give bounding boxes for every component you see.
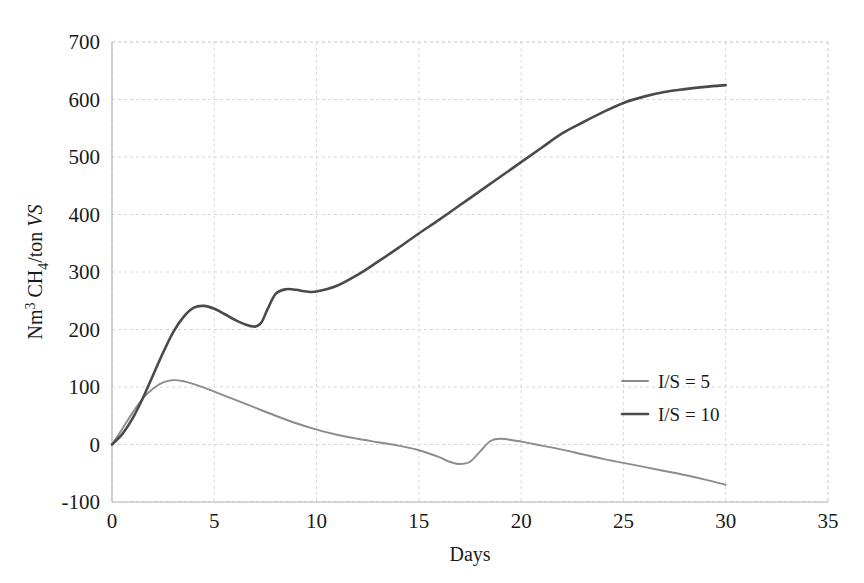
- x-tick-label: 25: [613, 509, 634, 533]
- y-axis-title-suffix: /ton: [24, 227, 46, 263]
- x-tick-label: 0: [107, 509, 118, 533]
- x-tick-label: 30: [715, 509, 736, 533]
- line-chart: 05101520253035 -100010020030040050060070…: [0, 0, 864, 583]
- y-tick-label: 100: [69, 375, 101, 399]
- y-tick-label: -100: [62, 490, 101, 514]
- x-tick-labels: 05101520253035: [107, 509, 839, 533]
- x-axis-title: Days: [449, 543, 490, 566]
- y-tick-label: 0: [90, 433, 101, 457]
- gridlines-group: [112, 42, 828, 502]
- y-axis-title-italic: VS: [24, 204, 46, 226]
- y-tick-label: 500: [69, 145, 101, 169]
- y-tick-labels: -1000100200300400500600700: [62, 30, 101, 514]
- legend: I/S = 5I/S = 10: [622, 371, 719, 425]
- y-axis-title-prefix: Nm: [24, 309, 46, 339]
- x-tick-label: 15: [408, 509, 429, 533]
- y-tick-label: 700: [69, 30, 101, 54]
- figure-container: 05101520253035 -100010020030040050060070…: [0, 0, 864, 583]
- y-tick-label: 300: [69, 260, 101, 284]
- legend-label-2: I/S = 10: [658, 404, 719, 425]
- legend-label-1: I/S = 5: [658, 371, 710, 392]
- y-tick-label: 200: [69, 318, 101, 342]
- x-tick-label: 20: [511, 509, 532, 533]
- y-axis-title-mid: CH: [24, 270, 46, 303]
- svg-text:Nm3 CH4/ton VS: Nm3 CH4/ton VS: [23, 204, 51, 339]
- x-tick-label: 5: [209, 509, 220, 533]
- y-axis-title-sup: 3: [23, 303, 38, 310]
- x-tick-label: 10: [306, 509, 327, 533]
- y-tick-label: 600: [69, 88, 101, 112]
- y-axis-title-sub: 4: [36, 263, 51, 270]
- x-tick-label: 35: [818, 509, 839, 533]
- y-tick-label: 400: [69, 203, 101, 227]
- y-axis-title: Nm3 CH4/ton VS: [23, 204, 51, 339]
